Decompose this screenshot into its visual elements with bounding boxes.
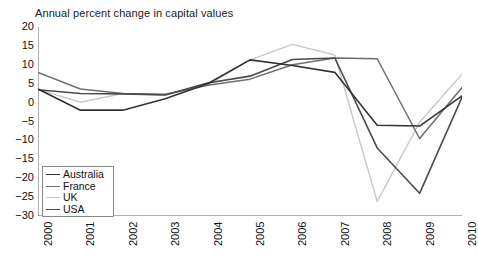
legend-item-australia[interactable]: Australia xyxy=(46,169,110,181)
y-tick-label: −25 xyxy=(8,190,34,202)
x-tick-label: 2000 xyxy=(42,222,54,246)
y-tick-label: 5 xyxy=(8,77,34,89)
x-tick-label: 2008 xyxy=(381,222,393,246)
legend-swatch-icon xyxy=(46,174,60,175)
legend-swatch-icon xyxy=(46,197,60,198)
x-tick-label: 2010 xyxy=(466,222,478,246)
y-tick-label: 20 xyxy=(8,20,34,32)
y-tick-label: −5 xyxy=(8,115,34,127)
y-tick-label: 10 xyxy=(8,58,34,70)
chart-title: Annual percent change in capital values xyxy=(35,7,233,19)
x-tick-label: 2007 xyxy=(339,222,351,246)
legend-swatch-icon xyxy=(46,209,60,210)
x-tick-label: 2005 xyxy=(254,222,266,246)
legend-label: Australia xyxy=(63,169,104,181)
legend-swatch-icon xyxy=(46,186,60,187)
legend-label: USA xyxy=(63,204,85,216)
y-tick-label: −10 xyxy=(8,133,34,145)
x-tick-label: 2009 xyxy=(424,222,436,246)
y-tick-label: −15 xyxy=(8,152,34,164)
x-tick-label: 2006 xyxy=(296,222,308,246)
x-tick-label: 2002 xyxy=(127,222,139,246)
legend-item-france[interactable]: France xyxy=(46,181,110,193)
y-tick-label: 0 xyxy=(8,96,34,108)
x-tick-label: 2004 xyxy=(212,222,224,246)
y-tick-label: −20 xyxy=(8,171,34,183)
y-tick-label: −30 xyxy=(8,209,34,221)
y-tick-label: 15 xyxy=(8,39,34,51)
x-tick-label: 2003 xyxy=(169,222,181,246)
x-tick-label: 2001 xyxy=(84,222,96,246)
legend-item-uk[interactable]: UK xyxy=(46,192,110,204)
chart-legend: AustraliaFranceUKUSA xyxy=(42,166,114,217)
legend-label: UK xyxy=(63,192,78,204)
legend-item-usa[interactable]: USA xyxy=(46,204,110,216)
